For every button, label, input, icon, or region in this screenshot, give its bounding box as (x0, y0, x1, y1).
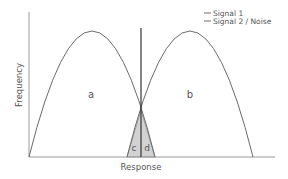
region-b-label: b (187, 89, 193, 100)
x-axis-label: Response (121, 162, 162, 172)
signal-detection-diagram: a b c d Response Frequency Signal 1 Sign… (0, 0, 288, 179)
legend: Signal 1 Signal 2 / Noise (204, 9, 272, 26)
region-a-label: a (88, 89, 94, 100)
region-d-label: d (144, 143, 150, 153)
legend-label-signal-2: Signal 2 / Noise (213, 17, 272, 26)
y-axis-label: Frequency (14, 63, 24, 107)
region-c-label: c (132, 143, 137, 153)
